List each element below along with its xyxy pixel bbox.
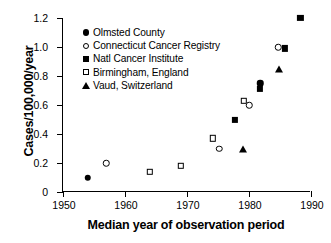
legend-item: Vaud, Switzerland <box>79 79 220 92</box>
plot-area: 00.20.40.60.81.01.2 19501960197019801990… <box>62 18 310 192</box>
x-tick-label: 1960 <box>114 199 137 211</box>
data-point <box>85 174 92 181</box>
data-point <box>216 145 223 152</box>
y-tick-label: 1.0 <box>33 41 48 53</box>
legend-item-label: Natl Cancer Institute <box>93 53 183 64</box>
data-point <box>178 163 184 169</box>
data-point <box>275 44 282 51</box>
x-axis-title: Median year of observation period <box>62 218 310 232</box>
x-tick-1980: 1980 <box>249 191 250 197</box>
legend-item: Birmingham, England <box>79 66 220 79</box>
y-tick-0.4: 0.4 <box>57 134 63 135</box>
x-tick-label: 1990 <box>300 199 323 211</box>
x-tick-1970: 1970 <box>187 191 188 197</box>
chart-legend: Olmsted CountyConnecticut Cancer Registr… <box>79 26 220 92</box>
y-tick-0.2: 0.2 <box>57 163 63 164</box>
legend-item: Olmsted County <box>79 26 220 39</box>
x-tick-label: 1950 <box>52 199 75 211</box>
open-circle-icon <box>79 43 93 50</box>
y-tick-label: 1.2 <box>33 12 48 24</box>
legend-item-label: Birmingham, England <box>93 67 189 78</box>
open-square-icon <box>79 69 93 75</box>
y-tick-0.6: 0.6 <box>57 105 63 106</box>
x-tick-label: 1980 <box>238 199 261 211</box>
legend-item: Connecticut Cancer Registry <box>79 39 220 52</box>
data-point <box>297 15 303 21</box>
legend-item: Natl Cancer Institute <box>79 52 220 65</box>
y-tick-label: 0.4 <box>33 128 48 140</box>
y-tick-label: 0.2 <box>33 157 48 169</box>
data-point <box>282 45 288 51</box>
x-tick-1990: 1990 <box>311 191 312 197</box>
legend-item-label: Olmsted County <box>93 27 165 38</box>
y-tick-label: 0.8 <box>33 70 48 82</box>
chart-figure: Cases/100,000/year 00.20.40.60.81.01.2 1… <box>0 0 331 243</box>
y-tick-label: 0.6 <box>33 99 48 111</box>
data-point <box>275 65 283 72</box>
x-tick-label: 1970 <box>176 199 199 211</box>
y-tick-0.8: 0.8 <box>57 76 63 77</box>
data-point <box>103 160 110 167</box>
filled-circle-icon <box>79 29 93 36</box>
y-tick-1.0: 1.0 <box>57 47 63 48</box>
x-tick-1960: 1960 <box>125 191 126 197</box>
filled-triangle-icon <box>79 82 93 89</box>
data-point <box>232 116 238 122</box>
data-point <box>239 145 247 152</box>
filled-square-icon <box>79 56 93 62</box>
y-tick-1.2: 1.2 <box>57 18 63 19</box>
data-point <box>257 86 263 92</box>
data-point <box>241 97 247 103</box>
legend-item-label: Vaud, Switzerland <box>93 80 173 91</box>
legend-item-label: Connecticut Cancer Registry <box>93 40 220 51</box>
x-tick-1950: 1950 <box>63 191 64 197</box>
data-point <box>147 168 153 174</box>
y-tick-label: 0 <box>42 186 48 198</box>
data-point <box>210 135 216 141</box>
